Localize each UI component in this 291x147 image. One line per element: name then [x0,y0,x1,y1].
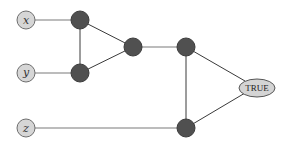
circuit-diagram: x y z TRUE [0,0,291,147]
input-node-z: z [17,119,35,137]
input-label-z: z [22,122,29,135]
output-label: TRUE [245,83,269,93]
gate-node-5 [177,119,195,137]
gate-node-4 [177,38,195,56]
edge-g5-out [186,93,245,128]
input-label-x: x [23,14,30,27]
input-node-y: y [17,64,35,82]
input-label-y: y [22,66,30,79]
gate-node-1 [71,11,89,29]
gate-node-2 [71,64,89,82]
edges [35,20,245,128]
input-node-x: x [17,11,35,29]
edge-g4-out [186,47,245,81]
gate-node-3 [124,38,142,56]
output-node-true: TRUE [239,79,275,97]
